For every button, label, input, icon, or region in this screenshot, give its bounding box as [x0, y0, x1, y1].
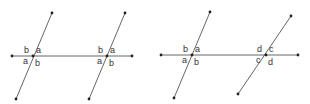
- figure-right: baabdccd: [160, 11, 300, 100]
- angle-label-top-right: a: [36, 45, 41, 55]
- endpoint: [131, 55, 134, 58]
- angle-label-bottom-right: b: [194, 57, 199, 67]
- angle-label-top-right: a: [110, 45, 115, 55]
- figure-left: baabbaab: [11, 12, 134, 101]
- angle-label-bottom-left: c: [256, 55, 261, 65]
- intersection-point: [265, 54, 268, 57]
- endpoint: [290, 15, 293, 18]
- endpoint: [209, 11, 212, 14]
- endpoint: [297, 54, 300, 57]
- endpoint: [124, 12, 127, 15]
- intersection-point: [106, 55, 109, 58]
- angle-label-top-right: c: [269, 44, 274, 54]
- endpoint: [88, 98, 91, 101]
- angle-label-bottom-right: b: [35, 58, 40, 68]
- intersection-point: [191, 54, 194, 57]
- angle-label-bottom-left: a: [23, 56, 28, 66]
- angle-label-top-left: d: [257, 44, 262, 54]
- angle-label-top-left: b: [98, 45, 103, 55]
- angle-label-top-left: b: [183, 44, 188, 54]
- endpoint: [160, 54, 163, 57]
- intersection-point: [32, 55, 35, 58]
- endpoint: [51, 12, 54, 15]
- endpoint: [173, 97, 176, 100]
- endpoint: [11, 55, 14, 58]
- angle-label-top-right: a: [195, 44, 200, 54]
- angle-label-bottom-left: a: [182, 55, 187, 65]
- angle-label-bottom-left: a: [97, 56, 102, 66]
- endpoint: [237, 93, 240, 96]
- angle-label-bottom-right: b: [109, 58, 114, 68]
- angle-label-bottom-right: d: [268, 57, 273, 67]
- parallel-lines-angle-diagram: baabbaabbaabdccd: [0, 0, 310, 104]
- angle-label-top-left: b: [24, 45, 29, 55]
- endpoint: [15, 98, 18, 101]
